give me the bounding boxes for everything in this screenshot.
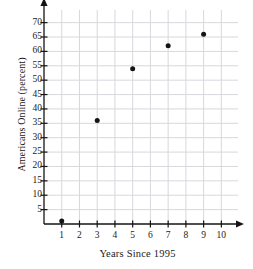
y-axis-arrowhead [40,0,47,6]
x-tick-label: 4 [106,230,124,240]
x-tick-label: 2 [70,230,88,240]
x-tick-label: 10 [212,230,230,240]
x-tick-label: 5 [124,230,142,240]
data-point [130,66,135,71]
x-tick-label: 7 [159,230,177,240]
plot-area [44,14,232,224]
y-tick-label: 70 [20,18,42,28]
data-point [166,43,171,48]
x-tick-label: 6 [141,230,159,240]
axis-lines [40,0,244,228]
scatter-plot-figure: Americans Online (percent) 5101520253035… [0,0,253,269]
tick-marks [41,23,222,228]
y-tick-label: 40 [20,104,42,114]
y-tick-label: 30 [20,133,42,143]
x-tick-label: 8 [177,230,195,240]
y-tick-label: 60 [20,46,42,56]
x-tick-label: 3 [88,230,106,240]
y-tick-label: 25 [20,147,42,157]
data-point [95,118,100,123]
grid-lines [44,10,238,224]
plot-svg [44,14,232,224]
data-point [201,32,206,37]
data-point [59,219,64,224]
y-tick-label: 65 [20,32,42,42]
y-tick-label: 35 [20,118,42,128]
y-tick-label: 50 [20,75,42,85]
y-tick-label: 55 [20,61,42,71]
y-tick-label: 15 [20,176,42,186]
x-axis-title: Years Since 1995 [45,248,230,259]
x-tick-label: 9 [195,230,213,240]
y-tick-label: 5 [20,205,42,215]
x-axis-arrowhead [236,220,244,227]
y-tick-label: 20 [20,161,42,171]
x-tick-label: 1 [53,230,71,240]
x-axis-tick-labels: 12345678910 [44,230,244,244]
y-tick-label: 45 [20,90,42,100]
y-axis-tick-labels: 510152025303540455055606570 [16,14,42,224]
y-tick-label: 10 [20,190,42,200]
